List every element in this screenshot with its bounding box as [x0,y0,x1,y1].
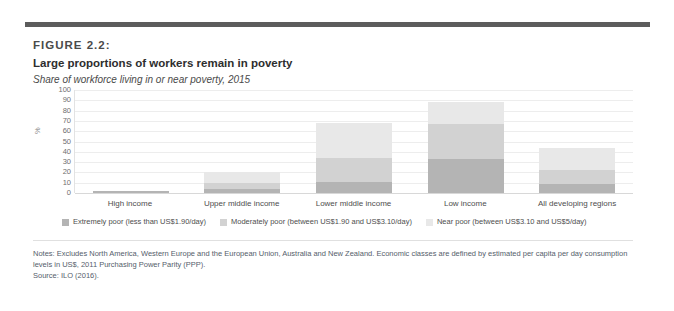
y-axis-tick-labels: 1009080706050403020100 [45,90,71,193]
legend-item[interactable]: Moderately poor (between US$1.90 and US$… [220,217,412,227]
figure-notes: Notes: Excludes North America, Western E… [33,249,633,282]
stacked-bar[interactable] [204,172,280,193]
x-axis-category-labels: High incomeUpper middle incomeLower midd… [74,198,633,209]
stacked-bar[interactable] [93,191,169,193]
gridline [75,193,633,194]
bar-segment[interactable] [316,182,392,193]
y-axis-tick: 50 [63,138,71,146]
y-axis-tick: 20 [63,168,71,176]
bar-segment[interactable] [539,170,615,183]
legend-item[interactable]: Near poor (between US$3.10 and US$5/day) [426,217,587,227]
y-axis-tick: 100 [58,86,71,94]
figure-card: FIGURE 2.2: Large proportions of workers… [0,0,674,311]
bar-segment[interactable] [428,124,504,159]
x-axis-label: Lower middle income [298,198,410,209]
y-axis-tick: 60 [63,127,71,135]
x-axis-label: All developing regions [521,198,633,209]
bar-segment[interactable] [539,184,615,193]
bar-slot [187,90,299,193]
chart-grid [74,90,633,193]
bar-segment[interactable] [204,172,280,182]
x-axis-label: Upper middle income [186,198,298,209]
legend-swatch-icon [62,219,69,226]
bar-slot [521,90,633,193]
y-axis-tick: 10 [63,179,71,187]
x-axis-label: High income [74,198,186,209]
top-rule-divider [25,22,650,27]
y-axis-tick: 40 [63,148,71,156]
stacked-bar[interactable] [539,148,615,193]
bar-segment[interactable] [204,189,280,193]
bar-slot [75,90,187,193]
x-axis-label: Low income [409,198,521,209]
notes-source: Source: ILO (2016). [33,271,633,282]
y-axis-tick: 0 [67,189,71,197]
bar-slot [410,90,522,193]
bar-segment[interactable] [428,159,504,193]
footer-divider [33,240,633,241]
legend-swatch-icon [426,219,433,226]
y-axis-tick: 80 [63,107,71,115]
bar-slot [298,90,410,193]
bar-segment[interactable] [93,191,169,193]
stacked-bar[interactable] [428,102,504,193]
y-axis-tick: 90 [63,96,71,104]
bar-series-layer [75,90,633,193]
legend-label: Extremely poor (less than US$1.90/day) [73,217,206,227]
bar-segment[interactable] [428,102,504,124]
y-axis-tick: 30 [63,158,71,166]
bar-segment[interactable] [316,123,392,158]
y-axis-tick: 70 [63,117,71,125]
legend-label: Near poor (between US$3.10 and US$5/day) [437,217,587,227]
y-axis-unit-label: % [33,127,42,134]
figure-header: FIGURE 2.2: Large proportions of workers… [33,38,633,87]
bar-segment[interactable] [316,158,392,182]
figure-title: Large proportions of workers remain in p… [33,55,633,71]
notes-body: Notes: Excludes North America, Western E… [33,249,633,270]
stacked-bar[interactable] [316,123,392,193]
chart-plot-area: % 1009080706050403020100 [33,90,633,198]
legend-label: Moderately poor (between US$1.90 and US$… [231,217,412,227]
legend-swatch-icon [220,219,227,226]
legend-item[interactable]: Extremely poor (less than US$1.90/day) [62,217,206,227]
figure-number: FIGURE 2.2: [33,38,633,53]
chart-legend: Extremely poor (less than US$1.90/day)Mo… [62,217,642,227]
bar-segment[interactable] [539,148,615,171]
figure-subtitle: Share of workforce living in or near pov… [33,72,633,87]
